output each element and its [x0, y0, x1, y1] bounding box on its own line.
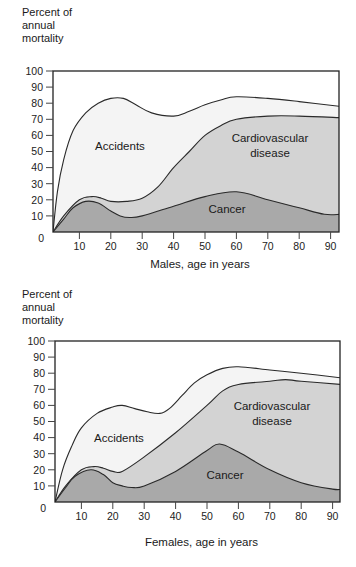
origin-label: 0 [38, 232, 44, 244]
y-tick-label: 10 [31, 210, 43, 222]
cardiovascular-label-line2: disease [250, 147, 290, 159]
females-y-axis-title: Percent of annual mortality [22, 288, 72, 327]
x-tick-label: 50 [199, 240, 211, 252]
y-tick-label: 90 [31, 81, 43, 93]
y-tick-label: 80 [31, 97, 43, 109]
x-tick-label: 80 [293, 240, 305, 252]
y-tick-label: 70 [31, 113, 43, 125]
y-tick-label: 40 [31, 161, 43, 173]
x-tick-label: 10 [74, 240, 86, 252]
cancer-label: Cancer [208, 203, 245, 215]
x-tick-label: 40 [168, 240, 180, 252]
y-axis-title-line: annual [22, 301, 72, 314]
y-axis-title-line: mortality [22, 314, 72, 327]
cardiovascular-label: Cardiovascular [232, 132, 309, 144]
y-tick-label: 50 [31, 145, 43, 157]
y-tick-label: 100 [25, 65, 43, 77]
x-tick-label: 90 [325, 240, 337, 252]
y-tick-label: 60 [31, 129, 43, 141]
x-axis-title: Males, age in years [150, 258, 250, 270]
y-tick-label: 20 [31, 194, 43, 206]
y-axis-title-line: Percent of [22, 288, 72, 301]
accidents-label: Accidents [95, 140, 145, 152]
x-tick-label: 30 [136, 240, 148, 252]
y-tick-label: 30 [31, 178, 43, 190]
x-tick-label: 60 [231, 240, 243, 252]
x-tick-label: 20 [105, 240, 117, 252]
x-tick-label: 70 [262, 240, 274, 252]
males-mortality-chart: 1020304050607080901000102030405060708090… [0, 0, 356, 567]
